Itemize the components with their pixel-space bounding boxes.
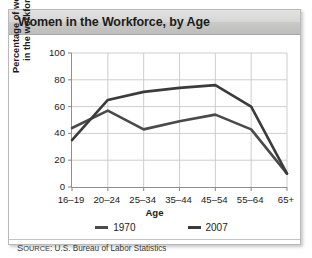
legend-swatch-icon	[188, 226, 201, 229]
legend-item-1970[interactable]: 1970	[95, 222, 135, 233]
y-axis-label: Percentage of women in the workforce	[11, 0, 41, 81]
chart-legend: 19702007	[9, 222, 300, 233]
y-axis-tick-0: 0	[39, 182, 65, 192]
chart-svg	[72, 53, 287, 187]
y-axis-tick-20: 20	[39, 155, 65, 165]
chart-area: Percentage of women in the workforce 020…	[9, 35, 300, 221]
source-label-rest: OURCE	[23, 244, 50, 253]
legend-label: 2007	[206, 222, 228, 233]
legend-label: 1970	[113, 222, 135, 233]
source-divider	[9, 239, 300, 240]
y-axis-tick-100: 100	[39, 48, 65, 58]
screenshot-root: Women in the Workforce, by Age Percentag…	[0, 0, 312, 258]
source-text: : U.S. Bureau of Labor Statistics	[50, 244, 167, 253]
x-axis-tick-16–19: 16–19	[58, 194, 85, 205]
x-axis-tick-25–34: 25–34	[129, 194, 156, 205]
legend-item-2007[interactable]: 2007	[188, 222, 228, 233]
x-axis-tick-20–24: 20–24	[93, 194, 120, 205]
source-note: SOURCE: U.S. Bureau of Labor Statistics	[17, 242, 166, 253]
x-axis-tick-35–44: 35–44	[165, 194, 192, 205]
chart-card: Women in the Workforce, by Age Percentag…	[8, 9, 301, 245]
x-axis-tick-55–64: 55–64	[237, 194, 264, 205]
y-axis-tick-40: 40	[39, 128, 65, 138]
y-axis-tick-60: 60	[39, 102, 65, 112]
plot-area	[71, 53, 287, 188]
legend-swatch-icon	[95, 226, 108, 229]
x-axis-tick-65+: 65+	[278, 194, 294, 205]
chart-title-bar: Women in the Workforce, by Age	[9, 10, 300, 35]
x-axis-label: Age	[9, 207, 300, 218]
x-axis-tick-45–54: 45–54	[201, 194, 228, 205]
plot-inner	[72, 53, 287, 187]
y-axis-tick-80: 80	[39, 75, 65, 85]
